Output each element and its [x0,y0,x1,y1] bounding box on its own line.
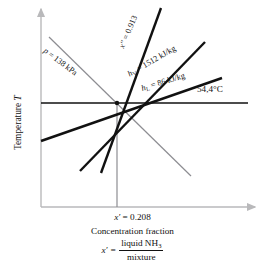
fraction-numerator-subscript: 3 [158,242,161,249]
state-point-marker [115,101,119,105]
liquid-concentration-label: x′ = 0.208 [0,212,265,222]
fraction-numerator-text: liquid NH [121,238,158,248]
concentration-fraction: liquid NH3 mixture [119,238,163,263]
fraction-numerator: liquid NH3 [119,238,163,249]
x-axis-title: Concentration fraction [0,226,265,236]
fraction-denominator: mixture [125,252,158,262]
y-axis-title: Temperature T [14,80,23,166]
thermodynamic-diagram: p = 138 kPa x′′ = 0.913 hV = 1512 kJ/kg … [0,0,265,278]
concentration-definition-lhs: x′ = [102,245,117,255]
y-axis-title-symbol: T [13,95,23,100]
x-axis-caption: x′ = 0.208 Concentration fraction x′ = l… [0,212,265,263]
concentration-definition: x′ = liquid NH3 mixture [102,238,164,263]
y-axis-title-text: Temperature [13,101,23,151]
liquid-concentration-value: = 0.208 [120,212,150,222]
isotherm-temperature-label: 54,4°C [197,85,223,94]
fraction-bar [119,250,163,251]
